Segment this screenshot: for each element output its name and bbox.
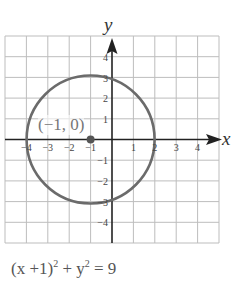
axes xyxy=(5,44,216,243)
svg-text:3: 3 xyxy=(103,73,108,84)
equation-rhs: = 9 xyxy=(90,259,117,278)
svg-text:2: 2 xyxy=(103,93,108,104)
center-point-label: (−1, 0) xyxy=(38,115,84,135)
svg-text:−1: −1 xyxy=(85,142,96,153)
x-axis-label: x xyxy=(222,128,230,150)
svg-text:3: 3 xyxy=(174,142,179,153)
svg-text:−3: −3 xyxy=(97,197,108,208)
svg-text:2: 2 xyxy=(152,142,157,153)
svg-text:−3: −3 xyxy=(42,142,53,153)
svg-text:1: 1 xyxy=(131,142,136,153)
svg-text:−4: −4 xyxy=(21,142,32,153)
svg-text:−4: −4 xyxy=(97,217,108,228)
y-axis-label: y xyxy=(104,14,112,36)
equation-base: (x +1) xyxy=(11,259,53,278)
equation-y-term: + y xyxy=(58,259,85,278)
svg-text:−1: −1 xyxy=(97,155,108,166)
svg-text:4: 4 xyxy=(195,142,200,153)
x-tick-labels: −4 −3 −2 −1 1 2 3 4 xyxy=(21,142,200,153)
svg-text:−2: −2 xyxy=(97,176,108,187)
svg-text:1: 1 xyxy=(103,114,108,125)
svg-text:4: 4 xyxy=(103,52,108,63)
graph: −4 −3 −2 −1 1 2 3 4 4 3 2 1 −1 −2 −3 −4 xyxy=(0,0,234,289)
circle-equation: (x +1)2 + y2 = 9 xyxy=(11,258,116,279)
svg-text:−2: −2 xyxy=(64,142,75,153)
